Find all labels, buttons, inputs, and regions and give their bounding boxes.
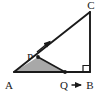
right-angle-marker-icon <box>83 66 89 73</box>
velocity-arrow-p-icon <box>37 42 50 53</box>
vertex-label-p: P <box>27 51 33 63</box>
vertex-label-c: C <box>87 0 94 11</box>
shaded-triangle-apq <box>14 57 65 72</box>
vertex-label-q: Q <box>60 79 68 91</box>
geometry-figure: A B C P Q <box>0 0 107 93</box>
segment-hypotenuse-ac <box>14 12 90 72</box>
vertex-label-b: B <box>86 79 93 91</box>
geometry-diagram: A B C P Q <box>0 0 107 93</box>
point-marker-p <box>36 55 40 59</box>
point-marker-q <box>63 70 67 74</box>
vertex-label-a: A <box>5 79 13 91</box>
